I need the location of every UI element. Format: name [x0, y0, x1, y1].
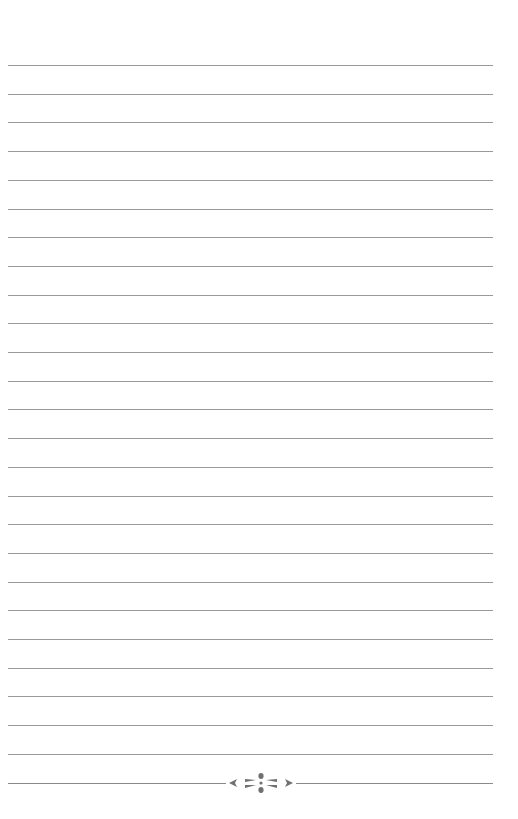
ruled-line — [8, 496, 493, 497]
ruled-line — [8, 582, 493, 583]
floral-divider-icon — [225, 771, 297, 795]
ruled-line — [8, 381, 493, 382]
ruled-line — [8, 94, 493, 95]
ruled-line — [8, 438, 493, 439]
ruled-line — [8, 180, 493, 181]
ruled-line — [8, 409, 493, 410]
ruled-line — [8, 237, 493, 238]
ruled-line — [8, 524, 493, 525]
ruled-line — [8, 553, 493, 554]
ruled-line — [8, 122, 493, 123]
ruled-line — [8, 295, 493, 296]
ruled-line — [8, 352, 493, 353]
ruled-line — [8, 610, 493, 611]
ruled-line — [8, 639, 493, 640]
ruled-line — [8, 696, 493, 697]
ruled-line — [8, 725, 493, 726]
ruled-line — [8, 668, 493, 669]
ruled-line — [8, 467, 493, 468]
ruled-line — [8, 65, 493, 66]
ruled-line — [8, 754, 493, 755]
footer-line-left — [8, 783, 226, 784]
notebook-page — [0, 0, 518, 819]
ruled-line — [8, 323, 493, 324]
ruled-line — [8, 266, 493, 267]
ruled-line — [8, 209, 493, 210]
footer-line-right — [296, 783, 493, 784]
ruled-line — [8, 151, 493, 152]
